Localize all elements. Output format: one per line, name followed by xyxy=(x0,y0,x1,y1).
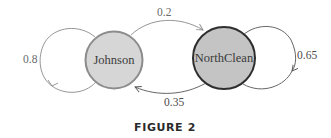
edge-label-northclean-self: 0.65 xyxy=(297,49,317,61)
node-johnson-label: Johnson xyxy=(94,53,136,67)
edge-label-johnson-self: 0.8 xyxy=(23,53,38,65)
node-northclean: NorthClean xyxy=(193,27,255,89)
edge-northclean-to-johnson xyxy=(135,83,206,93)
transition-diagram: 0.8 0.2 0.35 0.65 Johnson NorthClean FIG… xyxy=(0,0,331,138)
edge-johnson-to-northclean xyxy=(131,20,203,35)
edge-label-northclean-to-johnson: 0.35 xyxy=(164,96,184,108)
figure-caption: FIGURE 2 xyxy=(134,121,196,134)
node-johnson: Johnson xyxy=(86,32,143,89)
edge-label-johnson-to-northclean: 0.2 xyxy=(157,6,172,18)
arrowhead-johnson-self-loop xyxy=(48,80,58,86)
node-northclean-label: NorthClean xyxy=(195,51,254,65)
